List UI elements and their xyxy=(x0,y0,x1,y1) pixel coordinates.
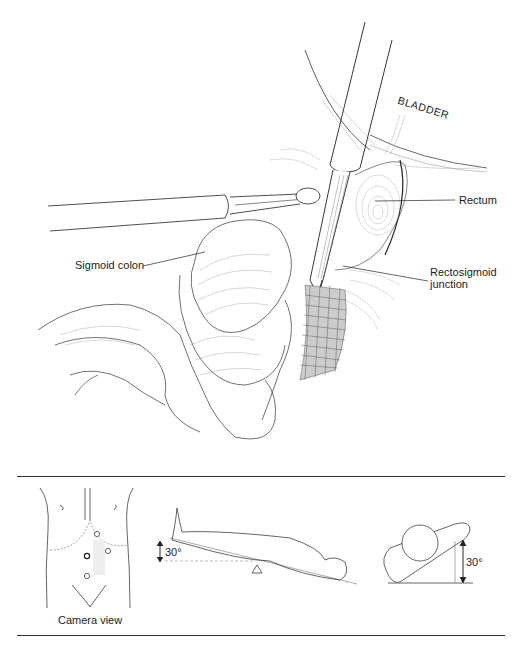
tilt-angle-right: 30° xyxy=(466,556,483,568)
positioning-cross-section xyxy=(0,0,530,660)
